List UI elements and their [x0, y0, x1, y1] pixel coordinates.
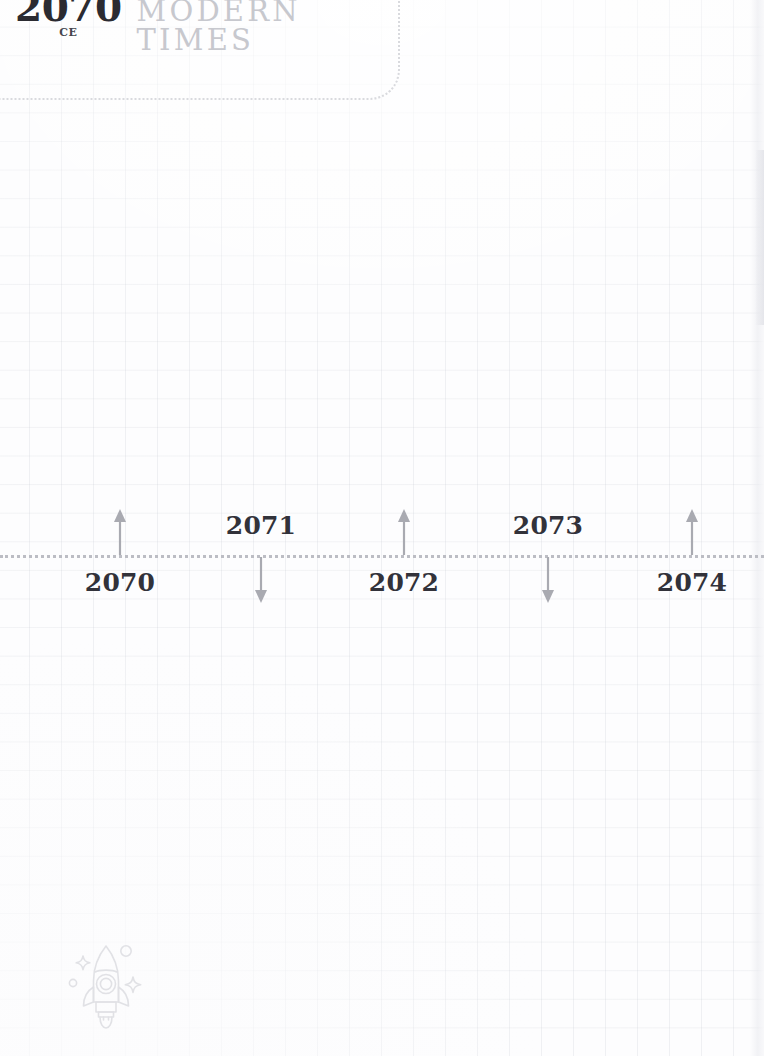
era-year: 2070 — [15, 0, 122, 27]
arrow-up-icon — [397, 509, 411, 555]
timeline-tick-label: 2071 — [226, 511, 296, 540]
era-year-block: 2070 CE — [15, 0, 122, 27]
arrow-up-icon — [113, 509, 127, 555]
arrow-down-icon — [254, 557, 268, 603]
timeline-tick-label: 2072 — [369, 568, 439, 597]
era-epoch: CE — [59, 26, 77, 39]
timeline-tick-label: 2070 — [85, 568, 155, 597]
timeline-tick-label: 2074 — [657, 568, 727, 597]
rocket-icon — [58, 932, 154, 1030]
era-name: MODERN TIMES — [137, 0, 398, 55]
era-header-panel: 2070 CE MODERN TIMES — [0, 0, 400, 100]
arrow-up-icon — [685, 509, 699, 555]
timeline-tick-label: 2073 — [513, 511, 583, 540]
timeline-axis — [0, 555, 764, 558]
arrow-down-icon — [541, 557, 555, 603]
era-header-content: 2070 CE MODERN TIMES — [15, 0, 398, 55]
